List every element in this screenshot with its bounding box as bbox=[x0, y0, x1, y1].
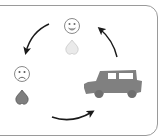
jeep-icon bbox=[84, 70, 142, 98]
arrow-jeep-to-happy bbox=[100, 29, 117, 57]
heart-icon bbox=[66, 40, 78, 54]
heart-icon bbox=[16, 90, 28, 104]
smiley-face-icon bbox=[65, 19, 80, 34]
sad-face-icon bbox=[15, 67, 30, 82]
arrow-happy-to-sad bbox=[26, 24, 49, 52]
cycle-diagram bbox=[0, 0, 164, 140]
arrow-sad-to-jeep bbox=[52, 112, 92, 120]
